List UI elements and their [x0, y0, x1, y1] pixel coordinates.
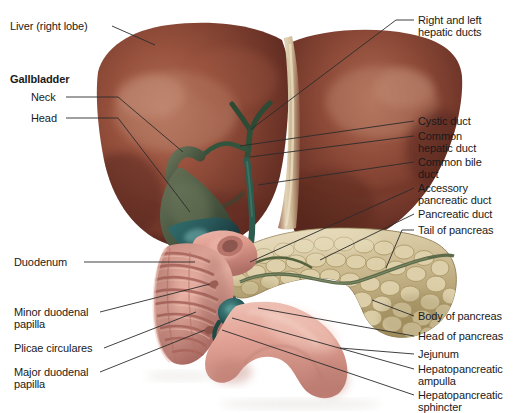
anatomy-figure: Liver (right lobe)GallbladderNeckHeadDuo…	[0, 0, 513, 413]
minor-duodenal-papilla-label: Minor duodenal papilla	[14, 306, 88, 330]
common-hepatic-duct-label: Common hepatic duct	[418, 130, 476, 154]
cystic-duct-label: Cystic duct	[418, 115, 471, 127]
gallbladder-neck-label: Neck	[31, 91, 56, 103]
hepatopancreatic-sphincter-label: Hepatopancreatic sphincter	[418, 389, 503, 413]
duodenum-label: Duodenum	[14, 256, 67, 268]
major-duodenal-papilla-label: Major duodenal papilla	[14, 366, 88, 390]
liver-right-lobe-label: Liver (right lobe)	[10, 20, 88, 32]
accessory-pancreatic-duct-label: Accessory pancreatic duct	[418, 182, 491, 206]
pancreatic-duct-label: Pancreatic duct	[418, 208, 492, 220]
common-bile-duct-label: Common bile duct	[418, 156, 482, 180]
right-and-left-hepatic-ducts-label: Right and left hepatic ducts	[418, 14, 482, 38]
body-of-pancreas-label: Body of pancreas	[418, 310, 502, 322]
hepatopancreatic-ampulla-label: Hepatopancreatic ampulla	[418, 363, 503, 387]
jejunum-label: Jejunum	[418, 348, 459, 360]
common-hepatic-duct-shape	[247, 131, 250, 160]
plicae-circulares-label: Plicae circulares	[14, 342, 92, 354]
gallbladder-head-label: Head	[31, 112, 57, 124]
tail-of-pancreas-label: Tail of pancreas	[418, 224, 493, 236]
gallbladder-heading-label: Gallbladder	[10, 73, 69, 85]
head-of-pancreas-label: Head of pancreas	[418, 330, 503, 342]
